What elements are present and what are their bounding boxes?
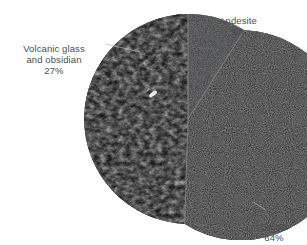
pie-label-andesite: Andesite 9% [198,4,278,48]
pie-label-basalt-name: Basalt [260,221,287,232]
pie-label-andesite-percent: 9% [198,26,278,37]
pie-label-volcanic-glass: Volcanic glass and obsidian 27% [2,32,106,87]
pie-label-andesite-name: Andesite [219,15,257,26]
pie-label-volcanic-glass-name: Volcanic glass and obsidian [23,43,85,65]
pie-label-basalt-percent: 64% [244,232,304,243]
pie-label-volcanic-glass-percent: 27% [2,65,106,76]
pie-label-basalt: Basalt 64% [244,210,304,245]
